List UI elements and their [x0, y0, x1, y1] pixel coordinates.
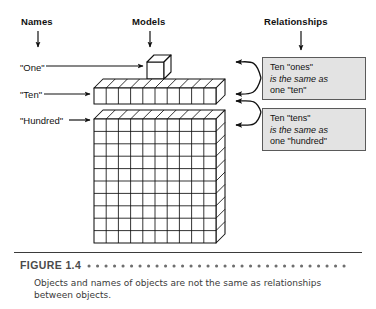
relationship-box-tens-to-hundred: Ten "tens" is the same as one "hundred"	[262, 108, 366, 151]
relationship-line-3: one "ten"	[270, 85, 358, 97]
relationship-line-2: is the same as	[270, 125, 358, 137]
relationship-line-3: one "hundred"	[270, 136, 358, 148]
model-hundred-flat	[94, 110, 225, 243]
relation-arrow-tens-to-hundred	[236, 101, 261, 125]
relationship-line-1: Ten "tens"	[270, 113, 358, 125]
figure-caption-text: Objects and names of objects are not the…	[34, 277, 354, 301]
caption-divider	[14, 252, 362, 253]
relation-arrow-ones-to-ten	[236, 62, 261, 94]
figure-number-label: FIGURE 1.4	[20, 259, 81, 271]
relationship-line-1: Ten "ones"	[270, 62, 358, 74]
relationship-line-2: is the same as	[270, 74, 358, 86]
relationship-box-ones-to-ten: Ten "ones" is the same as one "ten"	[262, 57, 366, 100]
model-unit-cube	[147, 55, 171, 79]
model-ten-rod	[94, 79, 225, 104]
figure-1-4: Names Models Relationships "One" "Ten" "…	[0, 0, 376, 309]
